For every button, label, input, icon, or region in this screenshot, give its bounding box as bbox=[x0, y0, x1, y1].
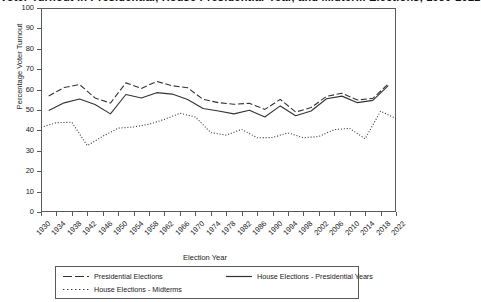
x-tick-mark bbox=[242, 212, 243, 216]
y-tick-label: 90 bbox=[8, 24, 34, 32]
x-tick-mark bbox=[319, 212, 320, 216]
y-tick-label: 70 bbox=[8, 65, 34, 73]
x-tick-mark bbox=[288, 212, 289, 216]
legend-label-presidential: Presidential Elections bbox=[94, 273, 163, 280]
chart-legend: Presidential Elections House Elections -… bbox=[55, 266, 359, 299]
y-tick-label: 80 bbox=[8, 45, 34, 53]
y-tick-label: 10 bbox=[8, 188, 34, 196]
legend-swatch-dotted bbox=[63, 286, 89, 293]
y-tick-label: 0 bbox=[8, 208, 34, 216]
y-tick-label: 60 bbox=[8, 86, 34, 94]
x-axis-title: Election Year bbox=[0, 253, 410, 262]
x-tick-mark bbox=[87, 212, 88, 216]
legend-entry-house-presidential-years: House Elections - Presidential Years bbox=[226, 273, 373, 280]
legend-label-house-midterms: House Elections - Midterms bbox=[94, 286, 182, 293]
x-tick-mark bbox=[257, 212, 258, 216]
x-tick-mark bbox=[273, 212, 274, 216]
x-tick-mark bbox=[164, 212, 165, 216]
x-tick-mark bbox=[381, 212, 382, 216]
x-tick-mark bbox=[365, 212, 366, 216]
x-tick-mark bbox=[396, 212, 397, 216]
x-tick-mark bbox=[149, 212, 150, 216]
x-tick-mark bbox=[226, 212, 227, 216]
x-tick-mark bbox=[303, 212, 304, 216]
series-line bbox=[41, 111, 396, 145]
legend-label-house-presidential-years: House Elections - Presidential Years bbox=[257, 273, 373, 280]
x-tick-mark bbox=[350, 212, 351, 216]
x-tick-mark bbox=[103, 212, 104, 216]
legend-swatch-dashed bbox=[63, 273, 89, 280]
series-line bbox=[49, 86, 389, 117]
y-tick-label: 20 bbox=[8, 167, 34, 175]
legend-swatch-solid bbox=[226, 273, 252, 280]
y-tick-label: 50 bbox=[8, 106, 34, 114]
plot-lines bbox=[41, 8, 396, 212]
x-tick-mark bbox=[334, 212, 335, 216]
x-tick-mark bbox=[118, 212, 119, 216]
y-tick-label: 30 bbox=[8, 147, 34, 155]
legend-entry-presidential: Presidential Elections bbox=[63, 273, 163, 280]
chart-title: Voter Turnout in Presidential, House Pre… bbox=[0, 0, 410, 3]
x-tick-mark bbox=[180, 212, 181, 216]
legend-entry-house-midterms: House Elections - Midterms bbox=[63, 286, 182, 293]
x-tick-mark bbox=[41, 212, 42, 216]
y-tick-label: 100 bbox=[8, 4, 34, 12]
y-tick-label: 40 bbox=[8, 126, 34, 134]
x-tick-mark bbox=[134, 212, 135, 216]
x-tick-mark bbox=[195, 212, 196, 216]
x-tick-mark bbox=[56, 212, 57, 216]
x-tick-mark bbox=[211, 212, 212, 216]
x-tick-mark bbox=[72, 212, 73, 216]
